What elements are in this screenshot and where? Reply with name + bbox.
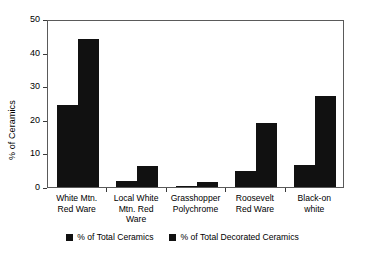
x-axis-tick-mark (225, 188, 226, 192)
bar-chart-figure: % of Ceramics 01020304050 White Mtn. Red… (0, 0, 365, 257)
bar (137, 166, 158, 187)
legend-entry: % of Total Ceramics (66, 232, 153, 243)
legend-label: % of Total Ceramics (77, 232, 153, 243)
y-axis-tick: 30 (0, 87, 47, 88)
bar (315, 96, 336, 187)
legend-swatch-icon (66, 234, 73, 241)
x-axis-tick-mark (285, 188, 286, 192)
x-axis-category-label: Local White Mtn. Red Ware (106, 193, 165, 225)
bar (235, 171, 256, 187)
y-axis-tick: 20 (0, 121, 47, 122)
y-axis-tick-label: 30 (30, 81, 40, 92)
bar (78, 39, 99, 188)
y-axis-tick: 10 (0, 154, 47, 155)
y-axis-tick-label: 10 (30, 148, 40, 159)
y-axis-tick-label: 0 (35, 182, 40, 193)
bar (57, 105, 78, 187)
plot-area (47, 20, 344, 188)
x-axis-category-label: Black-on white (285, 193, 344, 214)
bar (176, 186, 197, 187)
y-axis-tick-label: 20 (30, 115, 40, 126)
x-axis-category-label: Roosevelt Red Ware (225, 193, 284, 214)
y-axis-tick: 0 (0, 188, 47, 189)
x-axis-tick-mark (106, 188, 107, 192)
bar (197, 182, 218, 187)
x-axis-category-label: White Mtn. Red Ware (47, 193, 106, 214)
bar (256, 123, 277, 188)
y-axis-tick: 40 (0, 54, 47, 55)
bar (116, 181, 137, 187)
legend-swatch-icon (169, 234, 176, 241)
legend-entry: % of Total Decorated Ceramics (169, 232, 298, 243)
y-axis-tick-mark (43, 188, 47, 189)
x-axis-tick-mark (166, 188, 167, 192)
x-axis-category-label: Grasshopper Polychrome (166, 193, 225, 214)
bar (294, 165, 315, 188)
y-axis-tick-label: 40 (30, 48, 40, 59)
legend-label: % of Total Decorated Ceramics (180, 232, 298, 243)
y-axis-tick-label: 50 (30, 14, 40, 25)
y-axis-tick: 50 (0, 20, 47, 21)
chart-legend: % of Total Ceramics% of Total Decorated … (0, 232, 365, 243)
